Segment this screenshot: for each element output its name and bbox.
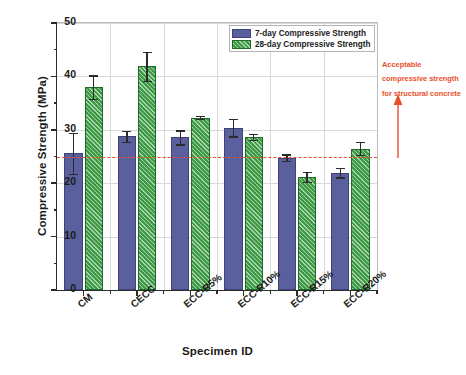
- x-axis-title: Specimen ID: [55, 345, 380, 357]
- y-axis-tick-label: 10: [36, 229, 76, 241]
- y-axis-tick-label: 50: [36, 15, 76, 27]
- y-axis-minor-tick: [54, 49, 58, 50]
- bar-s28-ECC-R15%: [298, 177, 316, 290]
- error-bar-cap: [303, 182, 312, 183]
- annotation-up-arrow-icon: [392, 94, 404, 158]
- error-bar: [126, 131, 127, 142]
- error-bar: [360, 142, 361, 155]
- acceptable-strength-reference-line: [57, 157, 377, 158]
- bar-chart-figure: Compressive Strength (MPa) Specimen ID 7…: [0, 0, 466, 375]
- error-bar-cap: [196, 119, 205, 120]
- error-bar: [146, 52, 147, 81]
- y-axis-tick-label: 0: [36, 282, 76, 294]
- legend-label-28-day: 28-day Compressive Strength: [255, 40, 371, 49]
- error-bar-cap: [229, 119, 238, 120]
- error-bar-cap: [176, 130, 185, 131]
- legend-item-28-day: 28-day Compressive Strength: [232, 39, 371, 49]
- annotation-line-1: Acceptable: [382, 58, 466, 72]
- y-axis-tick-label: 30: [36, 122, 76, 134]
- error-bar-cap: [143, 52, 152, 53]
- bar-s7-ECC-R15%: [278, 158, 296, 290]
- error-bar: [93, 75, 94, 98]
- error-bar-cap: [89, 99, 98, 100]
- bar-s28-ECC-R10%: [245, 137, 263, 290]
- bar-s7-ECC-R10%: [224, 128, 242, 290]
- error-bar: [73, 133, 74, 174]
- error-bar-cap: [336, 177, 345, 178]
- error-bar-cap: [282, 154, 291, 155]
- x-axis-minor-tick: [270, 290, 271, 294]
- x-axis-category-label: CM: [75, 291, 94, 309]
- error-bar-cap: [89, 75, 98, 76]
- legend-label-7-day: 7-day Compressive Strength: [255, 29, 366, 38]
- y-axis-minor-tick: [54, 263, 58, 264]
- error-bar-cap: [303, 172, 312, 173]
- error-bar-cap: [122, 131, 131, 132]
- bar-s28-CECC: [138, 66, 156, 290]
- error-bar-cap: [143, 81, 152, 82]
- legend-item-7-day: 7-day Compressive Strength: [232, 28, 371, 38]
- x-axis-minor-tick: [163, 290, 164, 294]
- bar-s7-ECC-R5%: [171, 137, 189, 290]
- error-bar-cap: [176, 144, 185, 145]
- bar-s7-ECC-R20%: [331, 173, 349, 290]
- error-bar-cap: [122, 142, 131, 143]
- error-bar-cap: [249, 134, 258, 135]
- bar-s28-CM: [85, 87, 103, 290]
- bar-s28-ECC-R20%: [351, 149, 369, 291]
- bar-s7-CECC: [118, 136, 136, 290]
- error-bar: [340, 168, 341, 178]
- x-axis-minor-tick: [376, 290, 377, 294]
- error-bar-cap: [196, 116, 205, 117]
- error-bar-cap: [282, 161, 291, 162]
- x-axis-minor-tick: [216, 290, 217, 294]
- error-bar-cap: [336, 168, 345, 169]
- x-axis-minor-tick: [323, 290, 324, 294]
- legend-swatch-7-day: [232, 29, 251, 38]
- y-axis-minor-tick: [54, 209, 58, 210]
- y-axis-tick-label: 40: [36, 68, 76, 80]
- error-bar: [180, 130, 181, 144]
- error-bar: [306, 172, 307, 182]
- error-bar-cap: [229, 136, 238, 137]
- chart-legend: 7-day Compressive Strength 28-day Compre…: [229, 25, 375, 52]
- plot-inner: [57, 23, 377, 290]
- x-axis-minor-tick: [110, 290, 111, 294]
- bar-s28-ECC-R5%: [191, 118, 209, 290]
- y-axis-minor-tick: [54, 102, 58, 103]
- y-axis-tick-label: 20: [36, 175, 76, 187]
- error-bar-cap: [356, 142, 365, 143]
- annotation-line-2: compressive strength: [382, 72, 466, 86]
- legend-swatch-28-day: [232, 40, 251, 49]
- error-bar-cap: [249, 140, 258, 141]
- error-bar: [233, 119, 234, 136]
- plot-area: [56, 22, 378, 291]
